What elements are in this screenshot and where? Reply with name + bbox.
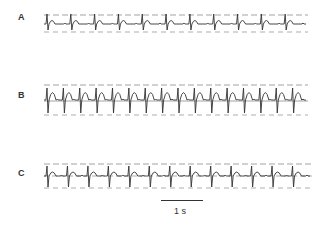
- panel-label-a: A: [18, 12, 25, 22]
- panel-label-c: C: [18, 168, 25, 178]
- ecg-trace-c: [40, 160, 315, 195]
- time-scale-label: 1 s: [174, 206, 186, 216]
- panel-label-b: B: [18, 90, 25, 100]
- time-scale-bar: [161, 200, 203, 201]
- ecg-trace-a: [40, 6, 310, 36]
- ecg-trace-b: [40, 80, 310, 120]
